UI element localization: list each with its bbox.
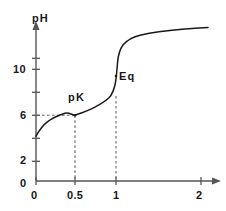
pk-annotation-label: pK — [68, 92, 85, 103]
x-tick-label-0: 0 — [31, 190, 37, 201]
guide-lines-group — [37, 96, 116, 180]
pk-marker-point — [74, 114, 77, 117]
x-tick-label-2: 2 — [196, 190, 202, 201]
x-axis-arrowhead — [212, 177, 221, 184]
y-tick-label-0: 0 — [20, 178, 26, 189]
x-tick-label-1: 1 — [113, 190, 119, 201]
y-tick-label-2: 2 — [20, 155, 26, 166]
eq-marker-point — [115, 75, 118, 78]
y-axis-title: pH — [32, 13, 49, 24]
y-tick-label-10: 10 — [13, 64, 26, 75]
eq-annotation-label: Eq — [119, 71, 135, 82]
axes-group — [32, 21, 221, 185]
titration-chart: pH 10 6 2 0 0 0.5 1 2 pK Eq — [0, 0, 226, 211]
x-tick-label-0-5: 0.5 — [67, 190, 83, 201]
y-tick-label-6: 6 — [20, 110, 26, 121]
chart-plot-area — [0, 0, 226, 211]
